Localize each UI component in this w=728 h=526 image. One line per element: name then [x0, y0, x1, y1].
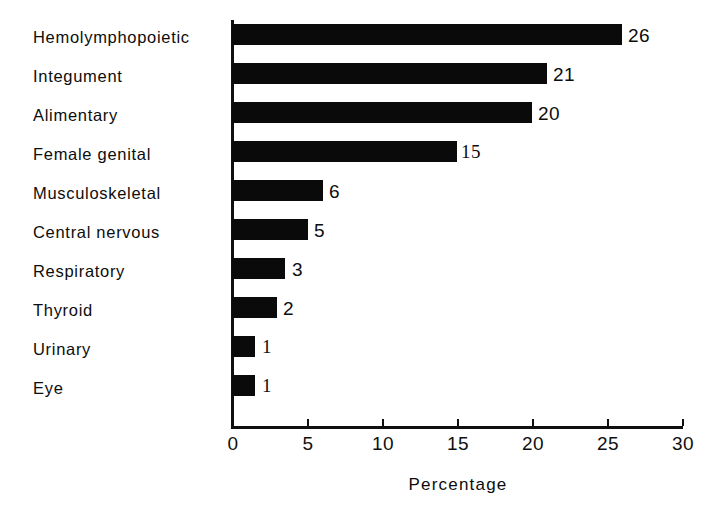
bar-value-label: 2 [283, 298, 294, 320]
x-tick-10 [382, 419, 384, 426]
bar-value-label: 3 [292, 259, 303, 281]
x-tick-label-5: 5 [288, 433, 328, 455]
bar [232, 375, 255, 396]
x-tick-label-0: 0 [213, 433, 253, 455]
category-label: Respiratory [33, 262, 223, 281]
bar-value-label: 6 [329, 181, 340, 203]
bar-row: Integument 21 [0, 63, 728, 101]
bar [232, 102, 532, 123]
bar-chart: 0 5 10 15 20 25 30 Hemolymphopoietic 26 … [0, 0, 728, 526]
x-tick-30 [682, 419, 684, 426]
bar-value-label: 1 [262, 375, 272, 397]
x-axis-line [231, 426, 683, 429]
bar-value-label: 15 [461, 141, 481, 163]
bar-row: Hemolymphopoietic 26 [0, 24, 728, 62]
category-label: Urinary [33, 340, 223, 359]
bar [232, 63, 547, 84]
bar-row: Female genital 15 [0, 141, 728, 179]
x-tick-label-20: 20 [513, 433, 553, 455]
bar-value-label: 21 [553, 64, 575, 86]
category-label: Integument [33, 67, 223, 86]
category-label: Eye [33, 379, 223, 398]
category-label: Alimentary [33, 106, 223, 125]
bar [232, 24, 622, 45]
category-label: Musculoskeletal [33, 184, 223, 203]
bar-value-label: 20 [538, 103, 560, 125]
chart-page: 0 5 10 15 20 25 30 Hemolymphopoietic 26 … [0, 0, 728, 526]
bar-row: Thyroid 2 [0, 297, 728, 335]
bar-row: Urinary 1 [0, 336, 728, 374]
x-tick-label-15: 15 [438, 433, 478, 455]
category-label: Central nervous [33, 223, 223, 242]
bar-row: Respiratory 3 [0, 258, 728, 296]
x-tick-5 [307, 419, 309, 426]
x-tick-label-25: 25 [588, 433, 628, 455]
bar [232, 141, 457, 162]
x-axis-title: Percentage [0, 475, 728, 495]
bar [232, 297, 277, 318]
bar [232, 258, 285, 279]
x-tick-25 [607, 419, 609, 426]
bar [232, 219, 308, 240]
bar-row: Central nervous 5 [0, 219, 728, 257]
x-tick-label-10: 10 [363, 433, 403, 455]
x-axis-title-text: Percentage [409, 475, 508, 495]
bar [232, 336, 255, 357]
bar-value-label: 5 [314, 220, 325, 242]
bar-value-label: 1 [262, 336, 272, 358]
x-tick-20 [532, 419, 534, 426]
bar [232, 180, 323, 201]
bar-row: Eye 1 [0, 375, 728, 413]
bar-row: Alimentary 20 [0, 102, 728, 140]
category-label: Hemolymphopoietic [33, 28, 223, 47]
x-tick-0 [232, 419, 234, 426]
x-tick-label-30: 30 [663, 433, 703, 455]
category-label: Female genital [33, 145, 223, 164]
category-label: Thyroid [33, 301, 223, 320]
bar-row: Musculoskeletal 6 [0, 180, 728, 218]
x-tick-15 [457, 419, 459, 426]
bar-value-label: 26 [628, 25, 650, 47]
